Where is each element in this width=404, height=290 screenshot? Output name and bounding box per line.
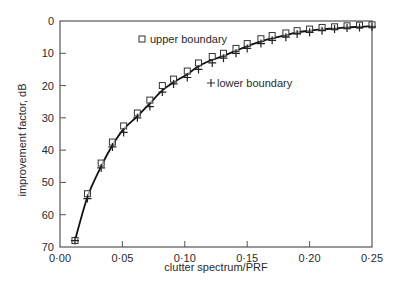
improvement-factor-chart: 010203040506070 0·000·050·100·150·200·25… — [0, 0, 404, 290]
plus-marker-icon — [195, 65, 203, 73]
square-marker-icon — [147, 97, 153, 103]
square-marker-icon — [209, 54, 215, 60]
plus-marker-icon — [146, 103, 154, 111]
legend-lower-boundary: lower boundary — [207, 77, 293, 89]
plot-frame — [60, 21, 372, 247]
y-tick-label: 20 — [42, 80, 54, 92]
square-marker-icon — [184, 68, 190, 74]
plot-border — [60, 21, 372, 247]
legend-lower-label: lower boundary — [217, 77, 293, 89]
y-tick-label: 50 — [42, 176, 54, 188]
x-tick-label: 0·00 — [49, 252, 71, 264]
y-tick-label: 40 — [42, 144, 54, 156]
square-marker-icon — [196, 60, 202, 66]
x-axis-label: clutter spectrum/PRF — [164, 261, 268, 273]
y-axis-ticks: 010203040506070 — [42, 15, 66, 253]
plus-marker-icon — [120, 128, 128, 136]
y-tick-label: 0 — [48, 15, 54, 27]
y-tick-label: 60 — [42, 209, 54, 221]
legend-upper-label: upper boundary — [150, 33, 228, 45]
square-marker-icon — [139, 36, 145, 42]
plus-marker-icon — [183, 74, 191, 82]
x-tick-label: 0·25 — [361, 252, 383, 264]
lower-boundary-markers — [71, 23, 376, 245]
y-tick-label: 30 — [42, 112, 54, 124]
y-axis-label: improvement factor, dB — [16, 83, 28, 196]
square-marker-icon — [159, 83, 165, 89]
plus-marker-icon — [207, 79, 215, 87]
y-tick-label: 10 — [42, 47, 54, 59]
square-marker-icon — [121, 123, 127, 129]
x-tick-label: 0·20 — [299, 252, 321, 264]
x-tick-label: 0·05 — [111, 252, 133, 264]
legend-upper-boundary: upper boundary — [139, 33, 228, 45]
